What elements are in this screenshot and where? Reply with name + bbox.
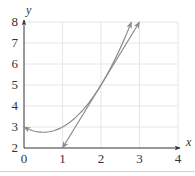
y-tick-label: 4: [12, 98, 19, 113]
y-axis-label: y: [25, 3, 32, 17]
y-tick-label: 5: [12, 77, 19, 92]
y-tick-label: 7: [12, 35, 19, 50]
y-tick-label: 8: [12, 14, 19, 29]
y-tick-label: 6: [12, 56, 19, 71]
chart: 012342345678 x y: [0, 0, 195, 171]
x-tick-label: 2: [98, 151, 105, 166]
divider: [0, 171, 195, 172]
x-tick-label: 3: [136, 151, 143, 166]
y-tick-label: 3: [12, 119, 19, 134]
x-tick-label: 1: [59, 151, 66, 166]
y-tick-label: 2: [12, 140, 19, 155]
x-tick-label: 4: [175, 151, 182, 166]
parabola-curve: [24, 22, 131, 132]
tick-labels: 012342345678: [12, 14, 182, 166]
x-tick-label: 0: [21, 151, 28, 166]
x-axis-label: x: [185, 135, 192, 149]
